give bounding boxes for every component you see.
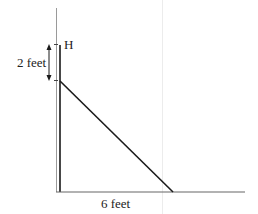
diagonal-line <box>60 81 173 192</box>
height-label: H <box>64 37 73 52</box>
horizontal-dimension-label: 6 feet <box>101 196 131 211</box>
dimension-arrow-icon <box>47 44 52 81</box>
triangle-diagram: H 2 feet 6 feet <box>0 0 258 214</box>
vertical-dimension-label: 2 feet <box>17 55 47 70</box>
